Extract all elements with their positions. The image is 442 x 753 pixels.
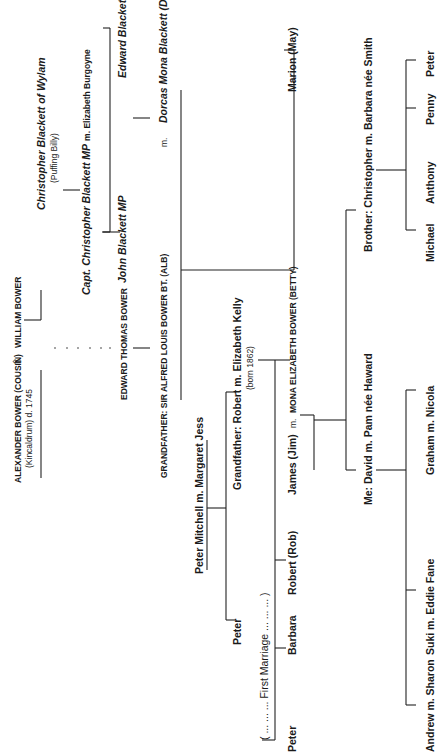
node-alexander-bower: ALEXANDER BOWER (COUSIN) xyxy=(13,354,23,483)
node-penny: Penny xyxy=(424,93,436,125)
node-suki: Suki m. Eddie Fane xyxy=(424,559,436,655)
node-william-bower: WILLIAM BOWER xyxy=(13,277,23,348)
node-peter-mitchell: Peter Mitchell m. Margaret Jess xyxy=(193,417,205,574)
node-capt-christopher-blackett: Capt. Christopher Blackett MPm. Elizabet… xyxy=(80,49,92,295)
node-christopher-blackett-wylam: Christopher Blackett of Wylam xyxy=(35,57,47,210)
node-grandfather-robert-sub: (born 1862) xyxy=(245,346,255,390)
node-brother-christopher: Brother: Christopher m. Barbara née Smit… xyxy=(362,37,374,252)
node-grandfather-robert: Grandfather: Robert m. Elizabeth Kelly xyxy=(231,297,243,490)
node-graham: Graham m. Nicola xyxy=(424,386,436,475)
node-peter-son: Peter xyxy=(231,619,243,645)
node-first-marriage: ( ... ... ... First Marriage ... ... ...… xyxy=(258,592,270,740)
node-michael: Michael xyxy=(424,223,436,262)
node-me-david: Me: David m. Pam née Haward xyxy=(362,353,374,505)
node-peter-grandchild: Peter xyxy=(286,726,298,752)
node-grandfather-alb: GRANDFATHER: SIR ALFRED LOUIS BOWER BT. … xyxy=(159,254,169,478)
marriage-marker: m. xyxy=(159,138,169,147)
node-barbara: Barbara xyxy=(286,615,298,655)
node-edward-blackett: Edward Blackett xyxy=(116,0,128,78)
dotted-descent xyxy=(54,347,111,349)
node-dorcas-blackett: Dorcas Mona Blackett (Darly) xyxy=(157,0,169,123)
node-peter-nephew: Peter xyxy=(424,51,436,77)
node-andrew: Andrew m. Sharon xyxy=(424,659,436,752)
marriage-marker: m. xyxy=(288,419,298,428)
arrow-icon: ⇧ xyxy=(11,357,23,366)
node-john-blackett: John Blackett MP xyxy=(116,194,128,283)
family-tree-diagram: ALEXANDER BOWER (COUSIN) (Kincaldrum) d.… xyxy=(0,0,442,753)
node-christopher-blackett-wylam-sub: (Puffing Billy) xyxy=(49,133,59,183)
node-alexander-bower-sub: (Kincaldrum) d. 1745 xyxy=(24,389,34,468)
node-anthony: Anthony xyxy=(424,161,436,204)
node-mona-elizabeth-bower: MONA ELIZABETH BOWER (BETTY) xyxy=(288,266,298,413)
node-marion-may: Marion (May) xyxy=(286,27,298,92)
node-james-jim: James (Jim) xyxy=(286,434,298,495)
node-robert-rob: Robert (Rob) xyxy=(286,531,298,595)
node-edward-thomas-bower: EDWARD THOMAS BOWER xyxy=(119,288,129,400)
